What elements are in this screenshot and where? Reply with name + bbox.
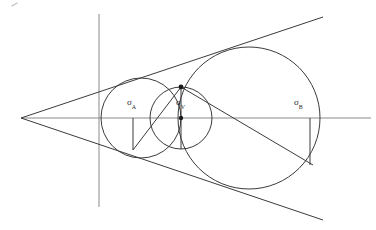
label-sigma-v: σV xyxy=(176,98,185,109)
lower-tangent-line xyxy=(21,118,323,220)
geometry-canvas xyxy=(0,0,376,230)
label-sigma-b: σB xyxy=(294,98,303,109)
label-sigma-b-subscript: B xyxy=(299,104,303,110)
label-sigma-a: σA xyxy=(127,98,136,109)
center-point-dot xyxy=(179,116,183,120)
tangency-point-dot xyxy=(179,85,184,90)
upper-tangent-line xyxy=(21,17,323,118)
label-sigma-a-subscript: A xyxy=(132,104,136,110)
geometry-figure: σA σV σB xyxy=(0,0,376,230)
label-sigma-v-subscript: V xyxy=(181,104,185,110)
